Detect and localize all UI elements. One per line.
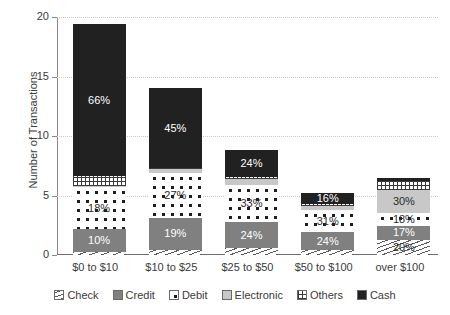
y-tick-mark: [52, 196, 57, 197]
chart-legend: CheckCreditDebitElectronicOthersCash: [0, 289, 450, 301]
y-tick-label: 15: [23, 70, 49, 82]
stacked-bar-chart: Number of Transactions 05101520 10%18%66…: [0, 0, 450, 315]
legend-label: Electronic: [235, 289, 283, 301]
bar-segment-cash[interactable]: 66%: [73, 24, 126, 176]
legend-item-check[interactable]: Check: [54, 289, 98, 301]
segment-value-label: 30%: [393, 196, 415, 207]
bar-segment-others[interactable]: [301, 204, 354, 205]
segment-value-label: 45%: [164, 123, 186, 134]
bar-segment-credit[interactable]: 19%: [149, 218, 202, 250]
gridline: [57, 17, 438, 18]
legend-item-credit[interactable]: Credit: [113, 289, 155, 301]
bar-segment-debit[interactable]: 33%: [225, 185, 278, 221]
bar-segment-electronic[interactable]: [73, 186, 126, 187]
y-tick-mark: [52, 17, 57, 18]
y-tick-label: 0: [23, 248, 49, 260]
legend-label: Others: [310, 289, 343, 301]
bar-1[interactable]: 10%18%66%: [73, 24, 126, 255]
bar-segment-others[interactable]: [73, 176, 126, 186]
bar-segment-check[interactable]: [73, 252, 126, 255]
segment-value-label: 17%: [393, 227, 415, 238]
segment-value-label: 18%: [393, 214, 415, 225]
bar-segment-check[interactable]: 20%: [377, 240, 430, 255]
legend-item-others[interactable]: Others: [297, 289, 343, 301]
legend-label: Credit: [126, 289, 155, 301]
segment-value-label: 31%: [317, 216, 339, 227]
bar-segment-others[interactable]: [377, 181, 430, 189]
bar-segment-debit[interactable]: 31%: [301, 210, 354, 233]
y-tick-mark: [52, 136, 57, 137]
y-tick-mark: [52, 77, 57, 78]
segment-value-label: 33%: [240, 198, 262, 209]
bar-4[interactable]: 24%31%16%: [301, 193, 354, 255]
segment-value-label: 24%: [240, 230, 262, 241]
bar-segment-check[interactable]: [225, 248, 278, 255]
segment-value-label: 16%: [317, 193, 339, 204]
legend-swatch-debit-icon: [169, 290, 179, 300]
segment-value-label: 66%: [88, 95, 110, 106]
bar-segment-cash[interactable]: 24%: [225, 150, 278, 177]
legend-item-electronic[interactable]: Electronic: [222, 289, 283, 301]
segment-value-label: 27%: [164, 190, 186, 201]
segment-value-label: 20%: [393, 242, 415, 253]
bar-segment-check[interactable]: [149, 250, 202, 255]
bar-segment-debit[interactable]: 18%: [377, 213, 430, 227]
bar-segment-electronic[interactable]: [225, 179, 278, 186]
y-tick-label: 5: [23, 189, 49, 201]
bar-2[interactable]: 19%27%45%: [149, 88, 202, 255]
bar-segment-credit[interactable]: 24%: [301, 232, 354, 250]
bar-segment-credit[interactable]: 24%: [225, 222, 278, 249]
bar-segment-electronic[interactable]: [149, 169, 202, 173]
legend-label: Cash: [370, 289, 396, 301]
bar-segment-credit[interactable]: 10%: [73, 229, 126, 252]
bar-segment-others[interactable]: [225, 177, 278, 179]
y-tick-label: 20: [23, 10, 49, 22]
legend-swatch-electronic-icon: [222, 290, 232, 300]
segment-value-label: 19%: [164, 228, 186, 239]
segment-value-label: 24%: [240, 158, 262, 169]
segment-value-label: 18%: [88, 203, 110, 214]
bar-segment-cash[interactable]: 16%: [301, 193, 354, 205]
bar-segment-debit[interactable]: 18%: [73, 187, 126, 229]
segment-value-label: 24%: [317, 236, 339, 247]
legend-item-debit[interactable]: Debit: [169, 289, 208, 301]
legend-label: Debit: [182, 289, 208, 301]
legend-label: Check: [67, 289, 98, 301]
bar-segment-debit[interactable]: 27%: [149, 173, 202, 218]
bar-segment-cash[interactable]: 45%: [149, 88, 202, 167]
bar-segment-check[interactable]: [301, 250, 354, 255]
bar-segment-electronic[interactable]: 30%: [377, 190, 430, 213]
y-tick-label: 10: [23, 129, 49, 141]
legend-swatch-credit-icon: [113, 290, 123, 300]
bar-segment-others[interactable]: [149, 168, 202, 169]
plot-area: 05101520 10%18%66%19%27%45%24%33%24%24%3…: [57, 17, 438, 255]
legend-swatch-check-icon: [54, 290, 64, 300]
segment-value-label: 10%: [88, 235, 110, 246]
legend-item-cash[interactable]: Cash: [357, 289, 396, 301]
bar-segment-electronic[interactable]: [301, 206, 354, 210]
bar-segment-credit[interactable]: 17%: [377, 226, 430, 239]
legend-swatch-others-icon: [297, 290, 307, 300]
bar-5[interactable]: 20%17%18%30%: [377, 178, 430, 255]
bar-3[interactable]: 24%33%24%: [225, 150, 278, 255]
legend-swatch-cash-icon: [357, 290, 367, 300]
x-axis-label-5: over $100: [352, 261, 448, 273]
bar-segment-cash[interactable]: [377, 178, 430, 182]
y-tick-mark: [52, 255, 57, 256]
